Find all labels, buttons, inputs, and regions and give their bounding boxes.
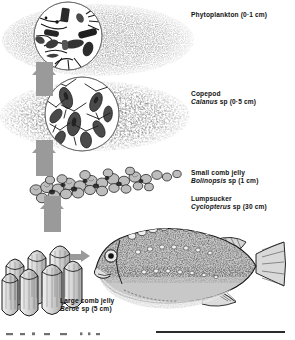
phytoplankton-illustration [0, 0, 200, 78]
label-lumpsucker-common: Lumpsucker [191, 195, 267, 203]
arrow-small-comb-jelly-to-large-comb-jelly [44, 196, 61, 232]
arrow-large-comb-jelly-to-lumpsucker [70, 250, 90, 263]
label-small-comb-jelly: Small comb jelly Bolinopsis sp (1 cm) [191, 169, 258, 185]
label-large-comb-jelly-genus: Beroe [60, 305, 79, 312]
label-copepod: Copepod Calanus sp (0·5 cm) [191, 90, 256, 106]
label-large-comb-jelly: Large comb jelly Beroe sp (5 cm) [60, 297, 114, 313]
label-phytoplankton: Phytoplankton (0·1 cm) [191, 11, 267, 19]
copepod-illustration [0, 76, 200, 156]
label-copepod-common: Copepod [191, 90, 256, 98]
page-rule [156, 331, 285, 333]
label-small-comb-jelly-common: Small comb jelly [191, 169, 258, 177]
figure-canvas: Phytoplankton (0·1 cm) Copepod Calanus s… [0, 0, 295, 340]
label-large-comb-jelly-common: Large comb jelly [60, 297, 114, 305]
label-copepod-size: sp (0·5 cm) [218, 98, 256, 105]
cropped-text-fragments [4, 330, 144, 337]
label-copepod-genus: Calanus [191, 98, 218, 105]
label-small-comb-jelly-size: sp (1 cm) [226, 177, 258, 184]
caudal-fin [256, 242, 286, 286]
label-lumpsucker-genus: Cyclopterus [191, 203, 231, 210]
label-small-comb-jelly-scientific: Bolinopsis sp (1 cm) [191, 177, 258, 185]
label-large-comb-jelly-scientific: Beroe sp (5 cm) [60, 305, 114, 313]
label-large-comb-jelly-size: sp (5 cm) [79, 305, 111, 312]
label-lumpsucker-scientific: Cyclopterus sp (30 cm) [191, 203, 267, 211]
arrow-copepod-to-small-comb-jelly [36, 140, 53, 176]
label-phytoplankton-line1: Phytoplankton (0·1 cm) [191, 11, 267, 19]
label-lumpsucker-size: sp (30 cm) [231, 203, 267, 210]
lumpsucker-fish-illustration [86, 216, 291, 316]
label-small-comb-jelly-genus: Bolinopsis [191, 177, 226, 184]
label-lumpsucker: Lumpsucker Cyclopterus sp (30 cm) [191, 195, 267, 211]
arrow-phytoplankton-to-copepod [36, 62, 53, 96]
label-copepod-scientific: Calanus sp (0·5 cm) [191, 98, 256, 106]
